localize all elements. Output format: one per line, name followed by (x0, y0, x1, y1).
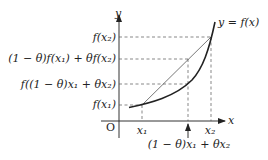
origin-label: O (106, 121, 115, 134)
convexity-diagram: y x O y = f(x) f(x₂) (1 − θ)f(x₁) + θf(x… (0, 0, 268, 160)
chord-line (142, 37, 211, 105)
x-axis-label: x (228, 114, 235, 127)
curve-label: y = f(x) (217, 16, 259, 29)
label-f-mid: f((1 − θ)x₁ + θx₂) (20, 78, 116, 91)
label-mid: (1 − θ)x₁ + θx₂ (148, 138, 230, 151)
label-f-x1: f(x₁) (92, 98, 116, 111)
y-axis-label: y (114, 7, 122, 20)
convex-curve (129, 22, 215, 108)
label-f-x2: f(x₂) (92, 31, 116, 44)
label-x2: x₂ (205, 124, 216, 137)
label-chord-value: (1 − θ)f(x₁) + θf(x₂) (8, 52, 116, 65)
label-x1: x₁ (137, 124, 148, 137)
